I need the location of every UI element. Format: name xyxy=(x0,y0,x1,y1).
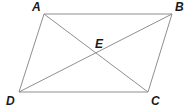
geometry-figure: A B C D E xyxy=(0,0,191,110)
vertex-label-a: A xyxy=(32,1,41,13)
side-DA xyxy=(19,14,44,92)
side-BC xyxy=(148,14,172,92)
vertex-label-c: C xyxy=(151,95,160,107)
vertex-label-e: E xyxy=(95,38,103,50)
vertex-label-b: B xyxy=(175,1,184,13)
diagonal-BD xyxy=(19,14,172,92)
vertex-label-d: D xyxy=(6,95,15,107)
geometry-canvas xyxy=(0,0,191,110)
